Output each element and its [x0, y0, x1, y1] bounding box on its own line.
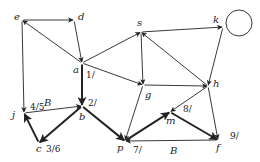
- node-label-f: f: [215, 142, 222, 153]
- edge-h-s: [142, 33, 207, 85]
- edge-s-k: [142, 27, 222, 32]
- node-label-k: k: [213, 14, 219, 25]
- node-label-e: e: [14, 11, 20, 22]
- node-label-g: g: [145, 89, 151, 100]
- edge-b-p: [83, 107, 124, 140]
- edge-m-f: [171, 113, 217, 140]
- directed-graph-diagram: edaskjbghcpmf1/2/4/53/67/8/9/BB: [0, 0, 260, 162]
- edge-s-g: [141, 33, 143, 84]
- node-label-b: b: [79, 111, 85, 122]
- node-label-s: s: [137, 17, 142, 28]
- edge-label: B: [43, 97, 51, 108]
- edge-e-j: [22, 21, 24, 112]
- graph-canvas: edaskjbghcpmf1/2/4/53/67/8/9/BB: [0, 0, 260, 162]
- edge-a-s: [83, 32, 140, 62]
- edge-g-h: [144, 85, 207, 86]
- edge-f-p: [126, 140, 217, 141]
- order-annotation: 9/: [230, 131, 240, 141]
- node-label-p: p: [117, 142, 124, 153]
- self-loop-k: [226, 10, 252, 36]
- edge-a-e: [23, 21, 81, 63]
- order-annotation: 3/6: [46, 144, 61, 154]
- self-loop-layer: [226, 10, 252, 36]
- order-annotation: 4/5: [30, 102, 45, 112]
- edge-label: B: [169, 145, 177, 156]
- edge-h-f: [208, 87, 218, 139]
- order-annotation: 2/: [88, 98, 98, 108]
- edge-b-c: [40, 107, 81, 142]
- edge-k-h: [208, 28, 222, 85]
- node-label-a: a: [73, 64, 79, 75]
- order-annotation: 8/: [183, 104, 193, 114]
- order-annotation: 7/: [133, 145, 143, 155]
- order-annotation: 1/: [86, 70, 96, 80]
- edge-d-a: [74, 21, 82, 62]
- node-label-d: d: [78, 11, 84, 22]
- node-label-c: c: [36, 143, 42, 154]
- edge-c-j: [24, 114, 38, 142]
- node-label-m: m: [166, 115, 175, 126]
- edges-layer: [22, 20, 223, 142]
- node-label-j: j: [10, 109, 15, 120]
- node-label-h: h: [213, 78, 219, 89]
